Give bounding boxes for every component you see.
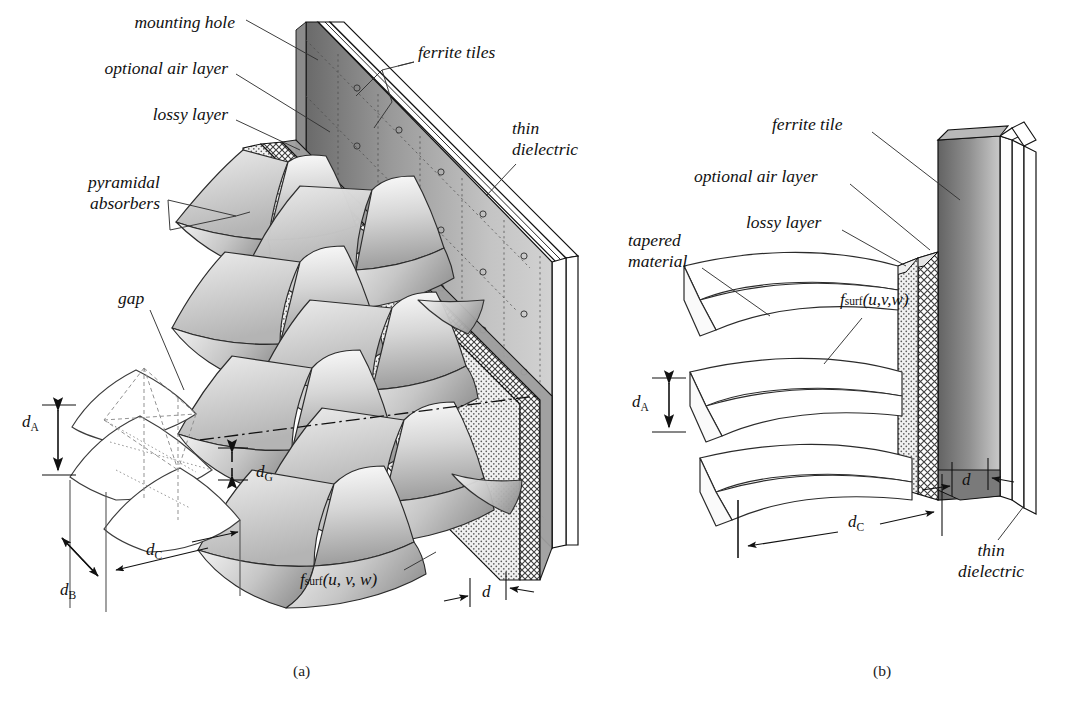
dim-d-B-a: dB [60, 580, 76, 601]
label-lossy-layer-a: lossy layer [153, 104, 228, 125]
label-tapered-material: tapered material [628, 230, 687, 271]
dim-d-A-b: dA [632, 392, 649, 413]
label-thin-dielectric-a: thin dielectric [512, 118, 578, 159]
label-lossy-layer-b: lossy layer [746, 212, 821, 233]
dim-d-C-b: dC [848, 512, 864, 533]
caption-panel-a: (a) [293, 662, 310, 680]
label-optional-air-layer-b: optional air layer [694, 166, 817, 187]
thin-dielectric-b [1000, 122, 1036, 514]
panel-b-graphics [652, 122, 1036, 558]
label-thin-dielectric-b: thin dielectric [958, 540, 1024, 581]
dim-d-C-a: dC [146, 540, 162, 561]
dim-d-thickness-a: d [482, 582, 491, 602]
label-ferrite-tile-b: ferrite tile [772, 114, 842, 135]
ferrite-tile-b [938, 126, 1008, 500]
formula-f-surf-a: fsurf(u, v, w) [300, 570, 377, 590]
dim-d-A-a: dA [22, 412, 39, 433]
dim-d-thickness-b: d [962, 470, 971, 490]
dim-d-G-a: dG [256, 462, 273, 483]
label-ferrite-tiles: ferrite tiles [418, 42, 495, 63]
label-optional-air-layer-a: optional air layer [105, 58, 228, 79]
figure-canvas: mounting hole optional air layer lossy l… [0, 0, 1089, 706]
label-gap: gap [118, 288, 144, 309]
caption-panel-b: (b) [873, 662, 891, 680]
panel-a-graphics [42, 20, 578, 612]
label-mounting-hole: mounting hole [134, 12, 235, 33]
label-pyramidal-absorbers: pyramidal absorbers [88, 172, 160, 213]
formula-f-surf-b: fsurf(u,v,w) [840, 290, 909, 310]
